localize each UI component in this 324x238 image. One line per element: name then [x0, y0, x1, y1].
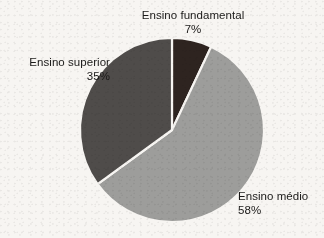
slice-label-name: Ensino fundamental [142, 9, 245, 21]
slice-label-percent: 7% [128, 23, 258, 37]
slice-label-ensino-fundamental: Ensino fundamental 7% [128, 9, 258, 36]
slice-label-percent: 35% [2, 70, 110, 84]
slice-label-name: Ensino superior [29, 56, 110, 68]
slice-label-ensino-medio: Ensino médio 58% [238, 190, 324, 217]
pie-chart-figure: Ensino fundamental 7% Ensino superior 35… [0, 0, 324, 238]
slice-label-ensino-superior: Ensino superior 35% [2, 56, 110, 83]
slice-label-percent: 58% [238, 204, 324, 218]
slice-label-name: Ensino médio [238, 190, 308, 202]
